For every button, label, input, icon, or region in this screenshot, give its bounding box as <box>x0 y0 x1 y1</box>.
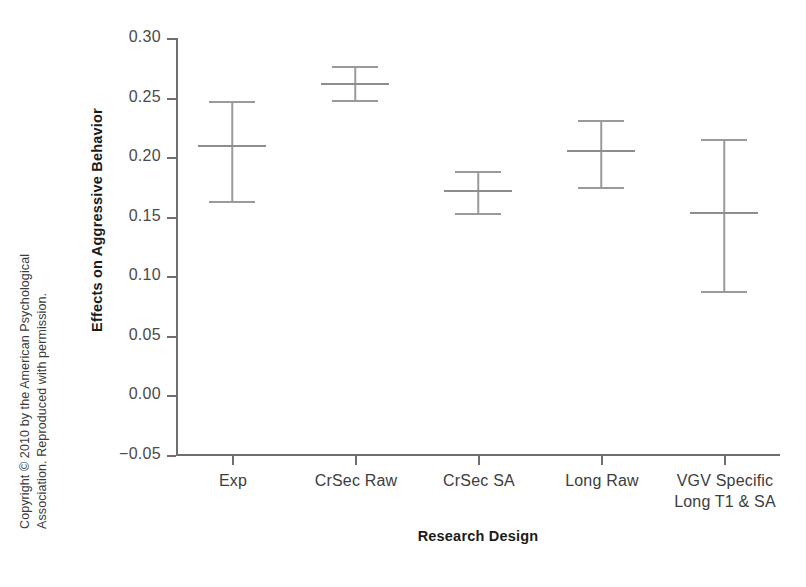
y-tick-7: −0.05 <box>167 455 176 457</box>
error-bar-exp-lower-cap <box>209 201 255 203</box>
x-tick-3 <box>601 454 603 465</box>
error-bar-vgv-specific-mean <box>690 212 758 214</box>
y-tick-6: 0.00 <box>167 395 176 397</box>
y-tick-label-7: −0.05 <box>119 445 161 463</box>
y-tick-label-0: 0.30 <box>129 28 161 46</box>
y-tick-4: 0.10 <box>167 276 176 278</box>
plot-area: 0.30 0.25 0.20 0.15 0.10 0.05 0.00 −0.05… <box>176 38 780 455</box>
error-bar-vgv-specific-stem <box>723 139 725 292</box>
y-tick-0: 0.30 <box>167 38 176 40</box>
figure-container: Copyright © 2010 by the American Psychol… <box>0 0 806 587</box>
x-tick-4 <box>724 454 726 465</box>
y-tick-1: 0.25 <box>167 98 176 100</box>
copyright-note: Copyright © 2010 by the American Psychol… <box>17 169 51 529</box>
y-tick-label-3: 0.15 <box>129 207 161 225</box>
y-tick-label-2: 0.20 <box>129 147 161 165</box>
error-bar-vgv-specific <box>704 139 744 292</box>
x-tick-label-vgv-specific: VGV Specific Long T1 & SA <box>645 470 805 512</box>
error-bar-vgv-specific-lower-cap <box>701 291 747 293</box>
error-bar-long-raw-stem <box>600 120 602 188</box>
y-tick-label-6: 0.00 <box>129 385 161 403</box>
error-bar-crsec-sa <box>458 171 498 214</box>
x-axis-title: Research Design <box>176 528 780 544</box>
error-bar-long-raw <box>581 120 621 188</box>
x-tick-0 <box>232 454 234 465</box>
y-tick-label-1: 0.25 <box>129 88 161 106</box>
y-tick-5: 0.05 <box>167 336 176 338</box>
error-bar-crsec-sa-lower-cap <box>455 213 501 215</box>
error-bar-long-raw-mean <box>567 150 635 152</box>
error-bar-long-raw-lower-cap <box>578 187 624 189</box>
y-tick-2: 0.20 <box>167 157 176 159</box>
error-bar-exp-stem <box>231 101 233 202</box>
y-axis-line <box>176 38 178 456</box>
y-tick-label-4: 0.10 <box>129 266 161 284</box>
y-tick-3: 0.15 <box>167 217 176 219</box>
y-tick-label-5: 0.05 <box>129 326 161 344</box>
error-bar-crsec-sa-mean <box>444 190 512 192</box>
error-bar-exp <box>212 101 252 202</box>
error-bar-crsec-raw <box>335 66 375 101</box>
error-bar-crsec-raw-lower-cap <box>332 100 378 102</box>
error-bar-crsec-raw-mean <box>321 83 389 85</box>
x-tick-2 <box>478 454 480 465</box>
error-bar-crsec-sa-stem <box>477 171 479 214</box>
y-axis-title: Effects on Aggressive Behavior <box>89 55 105 385</box>
x-tick-1 <box>355 454 357 465</box>
error-bar-exp-mean <box>198 145 266 147</box>
